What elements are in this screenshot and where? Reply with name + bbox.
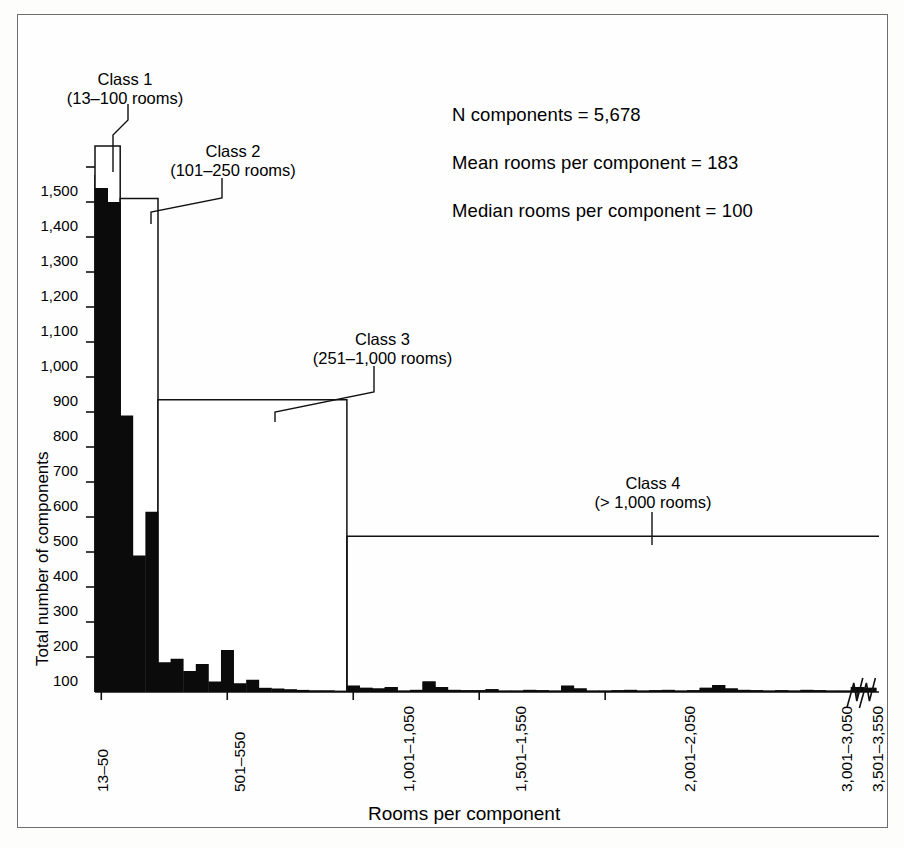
histogram-bar: [511, 691, 524, 692]
histogram-bar: [624, 690, 637, 692]
histogram-bar: [95, 188, 108, 692]
histogram-bar: [334, 691, 347, 692]
histogram-bar: [473, 690, 486, 692]
histogram-bar: [649, 690, 662, 692]
class-bracket-box: [158, 400, 347, 692]
histogram-bar: [662, 690, 675, 692]
histogram-bar: [548, 691, 561, 692]
histogram-bar: [284, 689, 297, 692]
chart-figure: Total number of components 1,500 1,400 1…: [0, 0, 904, 848]
histogram-bar: [410, 690, 423, 692]
histogram-bar: [221, 650, 234, 692]
histogram-bar: [196, 664, 209, 692]
histogram-bar: [800, 690, 813, 692]
histogram-bar: [183, 671, 196, 692]
histogram-bar: [297, 690, 310, 692]
histogram-bar: [448, 690, 461, 692]
histogram-bar: [259, 688, 272, 692]
histogram-bar: [838, 691, 851, 692]
histogram-bar: [826, 691, 839, 692]
histogram-bar: [120, 416, 133, 693]
histogram-bar: [486, 689, 499, 692]
histogram-bar: [586, 691, 599, 692]
histogram-bar: [435, 687, 448, 692]
histogram-bar: [712, 685, 725, 692]
histogram-bar: [271, 689, 284, 693]
histogram-bar: [637, 691, 650, 692]
histogram-bar: [322, 690, 335, 692]
histogram-bar: [108, 202, 121, 692]
histogram-bar: [725, 689, 738, 693]
histogram-bar: [536, 690, 549, 692]
histogram-bar: [574, 689, 587, 693]
histogram-bar: [145, 512, 158, 692]
histogram-bar: [788, 691, 801, 692]
histogram-bar: [133, 556, 146, 693]
histogram-bar: [498, 691, 511, 692]
histogram-bar: [171, 659, 184, 692]
histogram-bar: [561, 686, 574, 692]
histogram-bar: [372, 689, 385, 693]
histogram-bar: [360, 688, 373, 692]
histogram-bar: [158, 662, 171, 692]
histogram-bar: [523, 690, 536, 692]
histogram-bar: [423, 682, 436, 693]
histogram-bar: [246, 680, 259, 692]
histogram-bar: [611, 690, 624, 692]
histogram-bar: [599, 691, 612, 692]
histogram-bar: [208, 682, 221, 693]
histogram-bar: [347, 686, 360, 692]
histogram-bar: [687, 690, 700, 692]
histogram-bar: [385, 687, 398, 692]
histogram-bar: [460, 690, 473, 692]
histogram-bar: [397, 691, 410, 692]
histogram-bar: [234, 683, 247, 692]
histogram-bar: [775, 690, 788, 692]
histogram-bar: [700, 688, 713, 692]
histogram-bar: [813, 690, 826, 692]
histogram-bar: [674, 691, 687, 692]
histogram-bar: [750, 690, 763, 692]
histogram-bar: [763, 691, 776, 692]
histogram-bar: [309, 690, 322, 692]
histogram-plot: [0, 0, 904, 848]
class-2-leader: [151, 178, 222, 224]
histogram-bar: [737, 690, 750, 692]
